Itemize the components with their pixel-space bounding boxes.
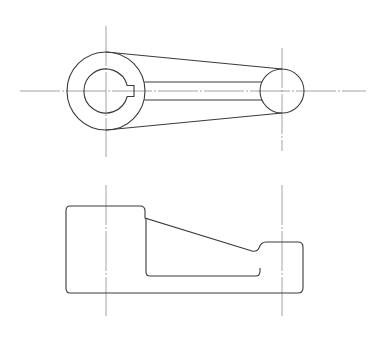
- inner-pocket-edge: [146, 218, 260, 276]
- arm-upper-edge: [106, 52, 282, 69]
- front-view-outline: [66, 206, 303, 293]
- technical-drawing: [0, 0, 379, 338]
- front-view: [66, 185, 303, 316]
- top-view: [20, 26, 366, 157]
- arm-lower-edge: [106, 113, 282, 130]
